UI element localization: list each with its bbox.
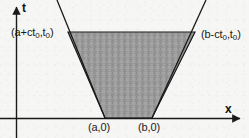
label-top-right-sub2: 0: [233, 33, 237, 42]
spacetime-diagram: t x (a+ct0,t0) (b-ct0,t0) (a,0) (b,0): [0, 0, 249, 138]
x-axis-label: x: [225, 103, 232, 115]
label-top-left-prefix: (a+ct: [11, 26, 35, 38]
label-top-left-vertex: (a+ct0,t0): [11, 27, 53, 38]
label-bottom-right-vertex: (b,0): [138, 122, 160, 133]
label-bottom-left-vertex: (a,0): [88, 122, 110, 133]
label-top-right-vertex: (b-ct0,t0): [201, 29, 241, 40]
label-top-right-suffix: ): [237, 28, 241, 40]
label-top-left-mid: ,t: [40, 26, 46, 38]
diagram-canvas: [0, 0, 249, 138]
t-axis-label: t: [22, 2, 26, 14]
label-top-left-sub1: 0: [35, 31, 39, 40]
label-top-left-sub2: 0: [46, 31, 50, 40]
label-top-right-sub1: 0: [223, 33, 227, 42]
label-top-right-prefix: (b-ct: [201, 28, 223, 40]
label-top-right-mid: ,t: [227, 28, 233, 40]
label-top-left-suffix: ): [50, 26, 54, 38]
